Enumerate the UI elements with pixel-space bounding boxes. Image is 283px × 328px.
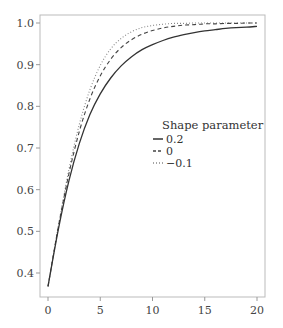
y-tick-label: 0.6 [17,184,35,197]
chart: 0.40.50.60.70.80.91.0 05101520 Shape par… [0,0,283,328]
series-line-dotted [48,23,257,286]
legend-title: Shape parameter [162,118,264,132]
y-axis: 0.40.50.60.70.80.91.0 [17,17,41,280]
x-tick-label: 0 [45,304,52,317]
series-line-dashed [48,23,257,286]
x-tick-label: 15 [198,304,212,317]
x-axis: 05101520 [45,297,265,317]
y-tick-label: 0.7 [17,142,35,155]
plot-frame [40,15,265,297]
y-tick-label: 1.0 [17,17,35,30]
legend: Shape parameter 0.20−0.1 [153,118,264,170]
y-tick-label: 0.9 [17,59,35,72]
series-lines [48,23,257,286]
x-tick-label: 10 [146,304,160,317]
series-line-solid [48,26,257,286]
y-tick-label: 0.5 [17,225,35,238]
y-tick-label: 0.4 [17,267,35,280]
x-tick-label: 20 [250,304,264,317]
x-tick-label: 5 [97,304,104,317]
legend-label: −0.1 [166,157,193,170]
y-tick-label: 0.8 [17,100,35,113]
